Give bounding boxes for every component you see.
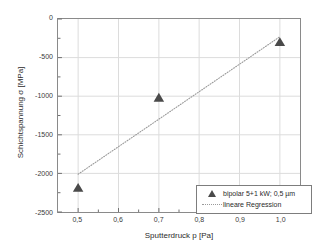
legend: bipolar 5+1 kW; 0,5 µm lineare Regressio… [196, 185, 312, 214]
x-tick-label: 0,8 [194, 216, 204, 224]
legend-label: lineare Regression [223, 200, 281, 209]
y-tick-label: 0 [49, 14, 53, 22]
y-tick-label: -1000 [35, 92, 53, 100]
axis-ticks [58, 19, 300, 212]
y-tick-label: -2000 [35, 170, 53, 178]
y-axis-title: Schichtspannung σ [MPa] [16, 13, 25, 213]
legend-label: bipolar 5+1 kW; 0,5 µm [223, 189, 295, 198]
plot-area [57, 18, 301, 213]
legend-entry: bipolar 5+1 kW; 0,5 µm [201, 188, 307, 199]
dotted-line-icon [201, 204, 223, 205]
legend-entry: lineare Regression [201, 199, 307, 210]
x-tick-label: 0,9 [235, 216, 245, 224]
x-tick-label: 0,6 [113, 216, 123, 224]
x-tick-label: 0,7 [154, 216, 164, 224]
y-axis-tick-labels: 0 -500 -1000 -1500 -2000 -2500 [20, 18, 53, 213]
y-tick-label: -2500 [35, 209, 53, 217]
x-tick-label: 1,0 [276, 216, 286, 224]
y-tick-label: -500 [39, 53, 53, 61]
chart-figure: 0 -500 -1000 -1500 -2000 -2500 [0, 0, 334, 252]
y-tick-label: -1500 [35, 131, 53, 139]
x-axis-tick-labels: 0,5 0,6 0,7 0,8 0,9 1,0 [57, 214, 301, 228]
x-axis-title: Sputterdruck p [Pa] [57, 231, 301, 240]
triangle-marker-icon [201, 190, 223, 197]
x-tick-label: 0,5 [72, 216, 82, 224]
